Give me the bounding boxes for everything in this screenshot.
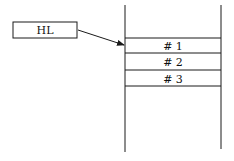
- stack-entry-3: # 3: [163, 73, 183, 86]
- hl-register-label: HL: [37, 24, 55, 37]
- stack-diagram: HL # 1 # 2 # 3: [0, 0, 234, 161]
- memory-stack: # 1 # 2 # 3: [125, 5, 221, 152]
- stack-entry-2: # 2: [163, 56, 183, 69]
- hl-register: HL: [13, 22, 77, 38]
- pointer-arrow: [78, 30, 124, 45]
- stack-entry-1: # 1: [163, 40, 183, 53]
